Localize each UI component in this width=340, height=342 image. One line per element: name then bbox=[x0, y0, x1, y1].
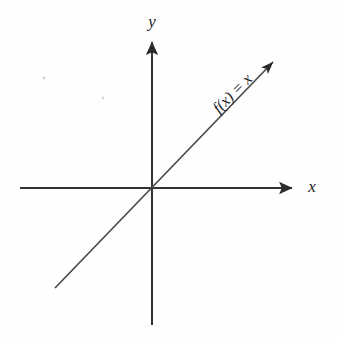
scan-speck bbox=[42, 76, 45, 79]
x-axis-label: x bbox=[307, 177, 316, 196]
figure-container: x y f(x) = x bbox=[0, 0, 340, 342]
scan-speck bbox=[102, 97, 105, 100]
y-axis-label: y bbox=[146, 12, 156, 31]
coordinate-plane-figure: x y f(x) = x bbox=[0, 0, 340, 342]
function-label: f(x) = x bbox=[209, 70, 256, 117]
scan-artifacts bbox=[42, 76, 104, 99]
